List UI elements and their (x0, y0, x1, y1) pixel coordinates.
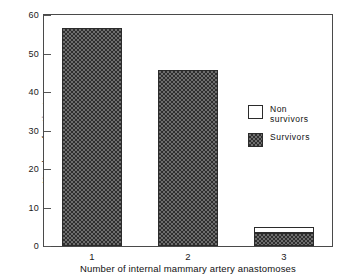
x-tick-label: 1 (89, 251, 94, 262)
legend-swatch-survivors-icon (248, 133, 263, 147)
y-tick-mark (44, 208, 51, 209)
y-tick-mark (44, 131, 51, 132)
legend-label-survivors-line1: Survivors (270, 133, 310, 143)
legend-label-non-survivors: Non survivors (270, 104, 309, 124)
bar-chart-figure: Number of patients 0102030405060 123 Num… (0, 0, 347, 279)
legend-item-non-survivors: Non survivors (248, 104, 336, 124)
y-tick-label: 10 (28, 203, 39, 213)
bar-segment-survivors (254, 233, 314, 246)
bar-group (158, 15, 218, 246)
y-tick-mark (44, 246, 51, 247)
legend-label-non-survivors-line2: survivors (270, 115, 309, 125)
legend-label-survivors: Survivors (270, 132, 310, 143)
bar-segment-survivors (62, 28, 122, 246)
x-tick-label: 3 (281, 251, 286, 262)
y-tick-label: 20 (28, 164, 39, 174)
y-tick-label: 0 (34, 241, 39, 251)
y-tick-label: 50 (28, 49, 39, 59)
y-tick-label: 40 (28, 87, 39, 97)
x-axis-title: Number of internal mammary artery anasto… (43, 263, 333, 274)
y-tick-mark (44, 54, 51, 55)
y-tick-mark (44, 92, 51, 93)
y-tick-label: 60 (28, 10, 39, 20)
x-tick-label: 2 (185, 251, 190, 262)
y-tick-label: 30 (28, 126, 39, 136)
chart-legend: Non survivors Survivors (248, 104, 336, 155)
bar-group (62, 15, 122, 246)
y-tick-mark (44, 169, 51, 170)
legend-swatch-non-survivors-icon (248, 105, 263, 119)
bar-segment-non-survivors (254, 227, 314, 233)
bar-segment-survivors (158, 70, 218, 246)
y-tick-mark (44, 15, 51, 16)
legend-item-survivors: Survivors (248, 132, 336, 147)
